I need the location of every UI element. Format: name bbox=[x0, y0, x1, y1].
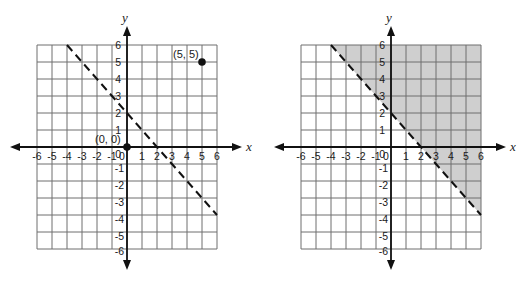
y-tick--2: -2 bbox=[379, 179, 388, 191]
x-tick--6: -6 bbox=[32, 150, 41, 162]
y-tick-5: 5 bbox=[379, 56, 385, 68]
y-tick--3: -3 bbox=[115, 196, 124, 208]
x-tick--2: -2 bbox=[356, 150, 365, 162]
y-tick--1: -1 bbox=[379, 162, 388, 174]
x-tick--2: -2 bbox=[92, 150, 101, 162]
y-tick--5: -5 bbox=[379, 230, 388, 242]
x-tick-6: 6 bbox=[478, 150, 484, 162]
x-tick-2: 2 bbox=[418, 150, 424, 162]
y-tick--1: -1 bbox=[115, 162, 124, 174]
x-tick-3: 3 bbox=[433, 150, 439, 162]
inequality-graph-svg: x y -6 -5 -4 -3 -2 -1 0 1 2 3 4 5 6 6 5 … bbox=[264, 0, 528, 281]
y-tick-4: 4 bbox=[379, 73, 385, 85]
axis-y-label: y bbox=[120, 10, 128, 25]
y-tick-2: 2 bbox=[379, 107, 385, 119]
point-origin-label: (0, 0) bbox=[95, 133, 121, 145]
y-tick-5: 5 bbox=[115, 56, 121, 68]
x-tick--4: -4 bbox=[62, 150, 71, 162]
y-tick-0: 0 bbox=[115, 148, 121, 160]
y-tick--4: -4 bbox=[115, 213, 124, 225]
point-5-5-marker bbox=[198, 58, 206, 66]
x-tick--6: -6 bbox=[296, 150, 305, 162]
x-tick-1: 1 bbox=[139, 150, 145, 162]
y-tick-1: 1 bbox=[379, 124, 385, 136]
y-tick-3: 3 bbox=[379, 90, 385, 102]
y-tick-6: 6 bbox=[379, 39, 385, 51]
y-tick--5: -5 bbox=[115, 230, 124, 242]
two-panel-coordinate-figure: x y -6 -5 -4 -3 -2 -1 0 1 2 3 4 5 6 6 5 … bbox=[0, 0, 528, 281]
x-tick--3: -3 bbox=[341, 150, 350, 162]
y-tick--6: -6 bbox=[379, 245, 388, 257]
axis-x-label: x bbox=[245, 139, 252, 154]
x-tick-4: 4 bbox=[184, 150, 190, 162]
y-tick--3: -3 bbox=[379, 196, 388, 208]
x-tick-5: 5 bbox=[463, 150, 469, 162]
y-tick-0: 0 bbox=[379, 148, 385, 160]
point-origin-marker bbox=[123, 143, 131, 151]
y-tick--6: -6 bbox=[115, 245, 124, 257]
point-5-5-label: (5, 5) bbox=[173, 48, 199, 60]
x-tick-3: 3 bbox=[169, 150, 175, 162]
y-tick--4: -4 bbox=[379, 213, 388, 225]
inequality-graph-panel: x y -6 -5 -4 -3 -2 -1 0 1 2 3 4 5 6 6 5 … bbox=[264, 0, 528, 281]
x-tick-4: 4 bbox=[448, 150, 454, 162]
x-tick--5: -5 bbox=[311, 150, 320, 162]
y-tick-4: 4 bbox=[115, 73, 121, 85]
x-tick-2: 2 bbox=[154, 150, 160, 162]
y-tick-2: 2 bbox=[115, 107, 121, 119]
x-tick-6: 6 bbox=[214, 150, 220, 162]
x-tick--5: -5 bbox=[47, 150, 56, 162]
x-tick--4: -4 bbox=[326, 150, 335, 162]
axis-x-label: x bbox=[509, 139, 516, 154]
line-graph-svg: x y -6 -5 -4 -3 -2 -1 0 1 2 3 4 5 6 6 5 … bbox=[0, 0, 264, 281]
x-tick-5: 5 bbox=[199, 150, 205, 162]
y-tick--2: -2 bbox=[115, 179, 124, 191]
axis-y-label: y bbox=[384, 10, 392, 25]
line-graph-panel: x y -6 -5 -4 -3 -2 -1 0 1 2 3 4 5 6 6 5 … bbox=[0, 0, 264, 281]
y-tick-6: 6 bbox=[115, 39, 121, 51]
y-tick-3: 3 bbox=[115, 90, 121, 102]
x-tick-1: 1 bbox=[403, 150, 409, 162]
x-tick--3: -3 bbox=[77, 150, 86, 162]
